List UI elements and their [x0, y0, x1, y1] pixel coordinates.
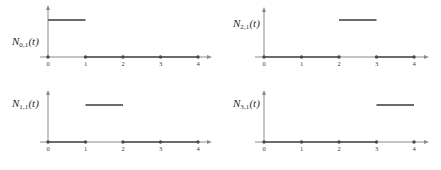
- panel-n21-label: N2,1(t): [233, 18, 260, 31]
- x-tick-label: 2: [121, 145, 124, 152]
- knot-dot: [337, 55, 340, 58]
- knot-dot: [412, 140, 415, 143]
- knot-dot: [196, 55, 199, 58]
- knot-dot: [159, 140, 162, 143]
- panel-n01-label-arg: (t): [28, 35, 38, 47]
- knot-dot: [300, 140, 303, 143]
- x-tick-label: 4: [196, 60, 200, 67]
- x-tick-label: 1: [84, 145, 87, 152]
- knot-dot: [262, 55, 265, 58]
- knot-dot: [412, 55, 415, 58]
- x-axis-arrow-icon: [207, 55, 212, 59]
- x-tick-label: 3: [375, 145, 378, 152]
- x-tick-label: 4: [412, 145, 416, 152]
- x-tick-label: 2: [121, 60, 124, 67]
- knot-dot: [337, 140, 340, 143]
- panel-n11-label: N1,1(t): [12, 98, 39, 111]
- knot-dot: [300, 55, 303, 58]
- x-tick-label: 3: [159, 145, 162, 152]
- bspline-basis-figure: N0,1(t) 0 1 2 3 4 N2,1(t): [0, 0, 441, 170]
- knot-dot: [84, 140, 87, 143]
- x-tick-label: 0: [262, 145, 265, 152]
- panel-n31-label: N3,1(t): [233, 98, 260, 111]
- x-tick-label: 1: [300, 60, 303, 67]
- x-axis-arrow-icon: [207, 140, 212, 144]
- knot-dot: [159, 55, 162, 58]
- knot-dot: [46, 140, 49, 143]
- x-tick-label: 2: [337, 145, 340, 152]
- y-axis-arrow-icon: [262, 7, 266, 12]
- y-axis-arrow-icon: [46, 90, 50, 95]
- knot-dot: [121, 55, 124, 58]
- knot-dot: [84, 55, 87, 58]
- panel-n31-label-arg: (t): [249, 97, 259, 109]
- panel-n21-plot: 0 1 2 3 4: [221, 0, 441, 85]
- x-axis-arrow-icon: [424, 140, 429, 144]
- x-tick-label: 1: [84, 60, 87, 67]
- x-tick-label: 4: [196, 145, 200, 152]
- knot-dot: [375, 55, 378, 58]
- x-tick-label: 0: [46, 145, 49, 152]
- panel-n21-label-arg: (t): [249, 17, 259, 29]
- x-tick-label: 3: [375, 60, 378, 67]
- x-tick-label: 3: [159, 60, 162, 67]
- x-tick-label: 0: [46, 60, 49, 67]
- knot-dot: [262, 140, 265, 143]
- x-tick-label: 4: [412, 60, 416, 67]
- x-axis-arrow-icon: [424, 55, 429, 59]
- panel-n11-label-arg: (t): [28, 97, 38, 109]
- x-tick-label: 0: [262, 60, 265, 67]
- knot-dot: [375, 140, 378, 143]
- panel-n31: N3,1(t) 0 1 2 3 4: [221, 85, 441, 170]
- panel-n11: N1,1(t) 0 1 2 3 4: [0, 85, 220, 170]
- panel-n21: N2,1(t) 0 1 2 3 4: [221, 0, 441, 85]
- panel-n01-label: N0,1(t): [12, 36, 39, 49]
- panel-n01: N0,1(t) 0 1 2 3 4: [0, 0, 220, 85]
- knot-dot: [121, 140, 124, 143]
- knot-dot: [46, 55, 49, 58]
- x-tick-label: 1: [300, 145, 303, 152]
- y-axis-arrow-icon: [262, 90, 266, 95]
- y-axis-arrow-icon: [46, 5, 50, 10]
- knot-dot: [196, 140, 199, 143]
- x-tick-label: 2: [337, 60, 340, 67]
